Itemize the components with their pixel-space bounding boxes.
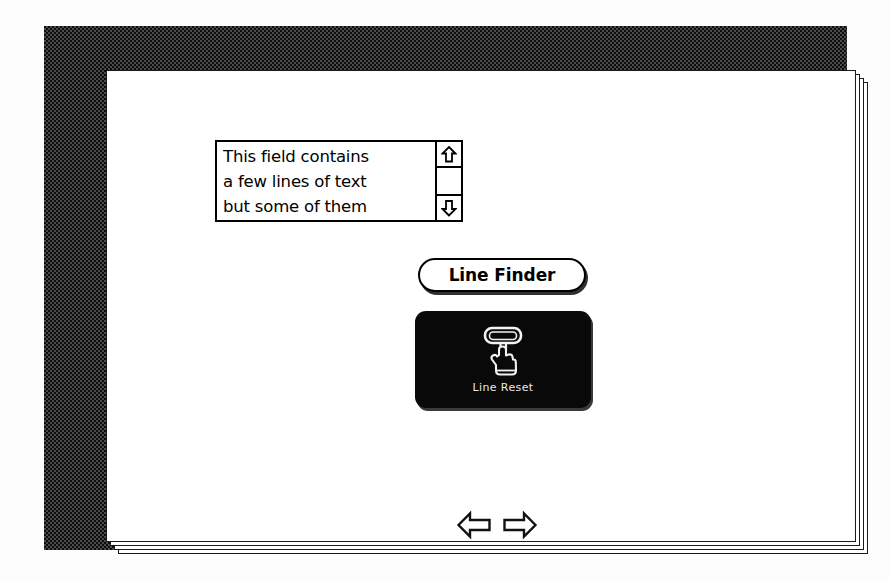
screen-background: This field contains a few lines of text … <box>0 0 890 581</box>
right-arrow-icon[interactable] <box>502 510 538 540</box>
hand-pressing-button-icon <box>472 325 534 379</box>
window-frame: This field contains a few lines of text … <box>44 26 847 550</box>
navigation-arrows <box>447 508 547 542</box>
line-reset-button[interactable]: Line Reset <box>415 311 591 408</box>
scroll-up-arrow-icon[interactable] <box>437 142 461 168</box>
card-canvas: This field contains a few lines of text … <box>106 70 856 542</box>
scrolling-text-field[interactable]: This field contains a few lines of text … <box>215 140 463 222</box>
text-field-line: but some of them <box>223 194 435 219</box>
line-finder-button[interactable]: Line Finder <box>418 258 586 292</box>
text-field-line: a few lines of text <box>223 169 435 194</box>
line-finder-button-label: Line Finder <box>449 265 556 285</box>
text-field-scrollbar[interactable] <box>435 142 461 220</box>
line-reset-button-label: Line Reset <box>472 381 533 394</box>
left-arrow-icon[interactable] <box>456 510 492 540</box>
text-field-content[interactable]: This field contains a few lines of text … <box>217 142 435 220</box>
text-field-line: This field contains <box>223 144 435 169</box>
scroll-down-arrow-icon[interactable] <box>437 194 461 220</box>
scrollbar-track[interactable] <box>437 168 461 194</box>
